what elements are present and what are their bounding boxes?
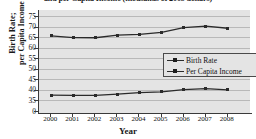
y-tick-mark	[34, 37, 38, 38]
legend-label-per-capita-income: Per Capita Income	[184, 67, 242, 76]
data-point	[94, 94, 97, 97]
plot-area: Birth Rate Per Capita Income	[38, 10, 250, 113]
x-tick-mark	[183, 113, 184, 117]
legend-marker-icon	[167, 56, 184, 65]
data-point	[138, 91, 141, 94]
data-point	[72, 36, 75, 39]
y-tick-mark	[34, 69, 38, 70]
y-tick-mark	[34, 16, 38, 17]
y-axis-title-line1: Birth Rate;	[8, 0, 17, 76]
x-tick-mark	[72, 113, 73, 117]
x-tick-mark	[50, 113, 51, 117]
data-point	[72, 94, 75, 97]
x-tick-mark	[138, 113, 139, 117]
y-tick-mark	[34, 58, 38, 59]
legend-item-birth-rate: Birth Rate	[167, 55, 256, 66]
data-point	[50, 34, 53, 37]
x-tick-mark	[227, 113, 228, 117]
data-point	[182, 88, 185, 91]
legend-label-birth-rate: Birth Rate	[184, 56, 217, 65]
legend-marker-icon	[167, 67, 184, 76]
data-point	[160, 31, 163, 34]
chart-figure: and per Capita Income (thousands of 2005…	[0, 0, 256, 139]
data-point	[226, 88, 229, 91]
y-tick-mark	[34, 48, 38, 49]
y-tick-mark	[34, 111, 38, 112]
data-point	[116, 34, 119, 37]
data-point	[116, 93, 119, 96]
data-point	[160, 90, 163, 93]
x-tick-mark	[116, 113, 117, 117]
y-tick-mark	[34, 90, 38, 91]
data-point	[204, 87, 207, 90]
x-axis-title: Year	[0, 126, 256, 136]
x-axis-line	[38, 113, 252, 114]
y-tick-mark	[34, 100, 38, 101]
chart-title: and per Capita Income (thousands of 2005…	[0, 0, 256, 3]
y-tick-mark	[34, 27, 38, 28]
data-point	[94, 36, 97, 39]
y-tick-mark	[34, 79, 38, 80]
data-point	[204, 25, 207, 28]
x-tick-mark	[161, 113, 162, 117]
data-point	[182, 26, 185, 29]
chart-legend: Birth Rate Per Capita Income	[163, 53, 256, 77]
data-point	[50, 94, 53, 97]
x-tick-mark	[205, 113, 206, 117]
legend-item-per-capita-income: Per Capita Income	[167, 66, 256, 77]
x-tick-mark	[94, 113, 95, 117]
data-point	[226, 27, 229, 30]
data-point	[138, 33, 141, 36]
